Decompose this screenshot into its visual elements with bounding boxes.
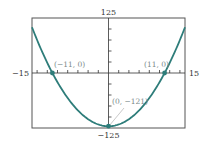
parabola-chart: 125 −125 −15 15 (−11, 0) (11, 0) (0, −12… [0,0,207,144]
y-min-label: −125 [98,131,120,140]
left-root-label: (−11, 0) [54,60,85,69]
vertex-label: (0, −121) [112,97,148,106]
x-max-label: 15 [189,69,199,78]
right-root-label: (11, 0) [144,60,169,69]
point-right-root [162,71,167,76]
x-min-label: −15 [12,69,29,78]
point-left-root [50,71,55,76]
y-max-label: 125 [101,8,116,17]
point-vertex [106,124,111,129]
